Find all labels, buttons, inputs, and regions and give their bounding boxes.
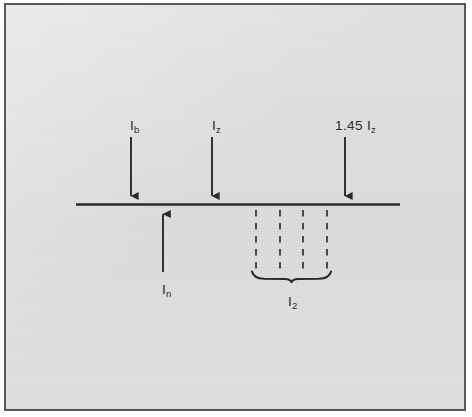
label-ib: Ib xyxy=(130,119,139,133)
label-iz: Iz xyxy=(212,119,221,133)
figure-page: Ib Iz 1.45 Iz In I2 xyxy=(0,0,472,417)
label-in: In xyxy=(162,283,171,297)
label-145iz: 1.45 Iz xyxy=(335,119,376,133)
label-i2: I2 xyxy=(288,295,297,309)
dashed-guide-lines xyxy=(256,210,327,271)
figure-frame: Ib Iz 1.45 Iz In I2 xyxy=(4,3,466,411)
diagram-canvas xyxy=(6,5,464,409)
i2-brace xyxy=(252,272,331,283)
